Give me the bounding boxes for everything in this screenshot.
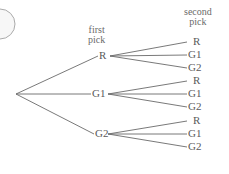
header-line: pick (184, 17, 212, 27)
node-G1-G1: G1 (188, 88, 201, 99)
node-first-R: R (99, 50, 106, 61)
node-R-G1: G1 (188, 49, 201, 60)
node-R-G2: G2 (188, 62, 201, 73)
node-first-G2: G2 (95, 128, 108, 139)
circle-decoration (0, 9, 15, 39)
node-R-R: R (193, 36, 200, 47)
second-pick-header: second pick (184, 7, 212, 27)
node-G1-R: R (193, 75, 200, 86)
node-G2-G2: G2 (188, 141, 201, 152)
header-line: pick (88, 35, 105, 45)
node-G1-G2: G2 (188, 101, 201, 112)
node-G2-G1: G1 (188, 128, 201, 139)
first-pick-header: first pick (88, 25, 105, 45)
node-first-G1: G1 (92, 88, 105, 99)
node-G2-R: R (193, 115, 200, 126)
